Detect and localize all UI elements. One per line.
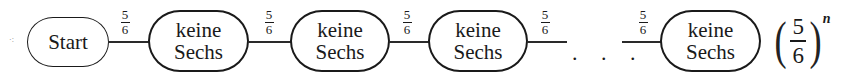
denominator: 6 xyxy=(266,24,273,36)
edge-line xyxy=(248,41,291,43)
numerator: 5 xyxy=(542,9,549,21)
numerator: 5 xyxy=(122,9,129,21)
left-paren: ( xyxy=(775,15,787,67)
result-fraction: 5 6 xyxy=(790,15,806,66)
edge-probability: 5 6 xyxy=(538,9,552,36)
right-paren: ) xyxy=(810,15,822,67)
edge-probability: 5 6 xyxy=(262,9,276,36)
state-node: keine Sechs xyxy=(428,10,528,72)
edge-line xyxy=(527,41,567,43)
start-node: Start xyxy=(27,17,109,67)
edge-probability: 5 6 xyxy=(400,9,414,36)
edge-probability: 5 6 xyxy=(636,9,650,36)
ellipsis: . . . xyxy=(572,40,645,66)
edge-line xyxy=(108,41,149,43)
node-label-line2: Sechs xyxy=(686,41,735,63)
node-label-line1: keine xyxy=(176,19,221,41)
fraction-bar xyxy=(790,40,806,41)
node-label-line1: keine xyxy=(317,19,362,41)
state-node: keine Sechs xyxy=(290,10,390,72)
exponent: n xyxy=(823,11,831,27)
numerator: 5 xyxy=(266,9,273,21)
start-label: Start xyxy=(48,31,88,53)
numerator: 5 xyxy=(404,9,411,21)
edge-probability: 5 6 xyxy=(118,9,132,36)
denominator: 6 xyxy=(122,24,129,36)
state-node: keine Sechs xyxy=(660,10,761,72)
node-label-line1: keine xyxy=(455,19,500,41)
node-label-line2: Sechs xyxy=(316,41,365,63)
denominator: 6 xyxy=(542,24,549,36)
result-formula: ( 5 6 ) n xyxy=(772,8,830,74)
denominator: 6 xyxy=(404,24,411,36)
numerator: 5 xyxy=(640,9,647,21)
edge-line xyxy=(389,41,429,43)
state-node: keine Sechs xyxy=(148,10,249,72)
node-label-line2: Sechs xyxy=(454,41,503,63)
node-label-line1: keine xyxy=(688,19,733,41)
node-label-line2: Sechs xyxy=(174,41,223,63)
denominator: 6 xyxy=(640,24,647,36)
denominator: 6 xyxy=(793,44,805,67)
numerator: 5 xyxy=(793,15,805,38)
edge-line xyxy=(622,41,661,43)
scan-speck: ·: xyxy=(9,35,14,44)
